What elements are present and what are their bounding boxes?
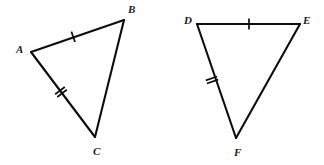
vertex-label-a: A	[16, 44, 23, 55]
edge-ab	[31, 20, 124, 52]
geometry-canvas	[0, 0, 324, 165]
edge-ef	[236, 24, 300, 138]
vertex-label-d: D	[184, 15, 192, 26]
vertex-label-b: B	[128, 4, 135, 15]
edge-bc	[95, 20, 124, 137]
vertex-label-c: C	[93, 146, 100, 157]
vertex-label-e: E	[303, 15, 310, 26]
triangle-abc	[31, 20, 124, 137]
tick-marks-layer	[55, 19, 249, 97]
edge-ac	[31, 52, 95, 137]
vertex-label-f: F	[234, 147, 241, 158]
geometry-figure: ABCDEF	[0, 0, 324, 165]
